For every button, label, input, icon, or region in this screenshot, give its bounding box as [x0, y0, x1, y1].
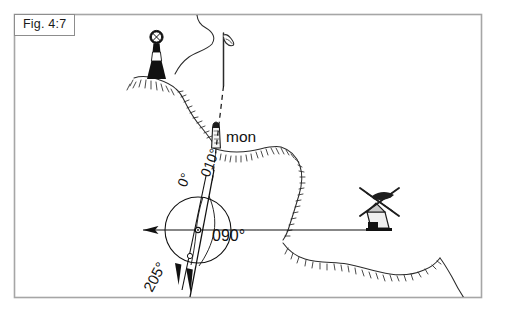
place-label-mon: mon [226, 128, 256, 145]
bearing-label-010: 010° [197, 146, 223, 179]
observation-point [187, 253, 192, 258]
bearing-label-205: 205° [140, 259, 170, 294]
bearing-arrowheads-205 [175, 263, 193, 293]
chart-canvas: mon 0° 010° 090° 205° [0, 0, 506, 315]
figure-container: mon 0° 010° 090° 205° Fig. 4:7 [0, 0, 506, 315]
coastline [134, 10, 464, 298]
figure-caption-box: Fig. 4:7 [14, 14, 75, 36]
lighthouse-symbol [147, 30, 166, 79]
figure-frame [15, 15, 482, 298]
compass-center-dot [197, 229, 199, 231]
figure-caption-text: Fig. 4:7 [23, 17, 66, 31]
bearing-label-000: 0° [174, 171, 194, 189]
flagstaff-symbol [224, 33, 234, 86]
bearing-label-090: 090° [212, 227, 245, 244]
windmill-symbol [360, 188, 399, 231]
